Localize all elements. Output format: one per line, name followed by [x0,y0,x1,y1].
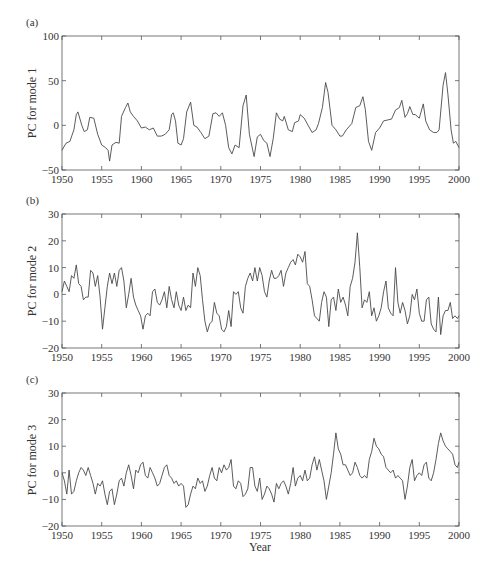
plot-frame [62,36,459,170]
panel-a: (a) PC for mode 1 1950195519601965197019… [25,16,471,185]
x-tick-label: 1970 [210,173,233,185]
series-line [62,433,459,508]
x-tick-label: 1995 [408,173,431,185]
y-tick-label: −50 [42,164,60,176]
x-tick-label: 1975 [250,529,273,541]
y-tick-label: 20 [48,235,60,247]
y-tick-label: 0 [54,467,60,479]
x-tick-label: 1975 [250,173,273,185]
y-tick-label: −10 [42,493,60,505]
x-tick-label: 1955 [91,529,114,541]
x-tick-label: 2000 [448,529,471,541]
y-tick-label: 50 [48,75,60,87]
x-tick-label: 1985 [329,173,352,185]
y-tick-label: 30 [48,387,60,399]
y-axis-label: PC for mode 1 [25,68,39,138]
y-tick-label: 30 [48,208,60,220]
x-tick-label: 1970 [210,529,233,541]
x-tick-label: 2000 [448,351,471,363]
x-axis-label: Year [249,540,271,554]
plot-frame [62,393,459,526]
x-tick-label: 1995 [408,351,431,363]
x-tick-label: 1960 [130,173,153,185]
x-tick-label: 1985 [329,529,352,541]
y-tick-label: 10 [48,440,60,452]
y-tick-label: 0 [54,288,60,300]
x-tick-label: 1990 [369,351,392,363]
x-tick-label: 1965 [170,173,193,185]
panel-label: (c) [26,373,39,386]
x-tick-label: 1960 [130,529,153,541]
y-axis-label: PC for mode 3 [25,425,39,495]
x-tick-label: 2000 [448,173,471,185]
y-tick-label: 10 [48,262,60,274]
x-tick-label: 1975 [250,351,273,363]
x-tick-label: 1980 [289,351,312,363]
series-line [62,233,459,335]
series-line [62,73,459,162]
x-tick-label: 1965 [170,529,193,541]
x-tick-label: 1965 [170,351,193,363]
y-tick-label: −20 [42,520,60,532]
x-tick-label: 1955 [91,351,114,363]
figure: (a) PC for mode 1 1950195519601965197019… [0,0,494,577]
y-tick-label: −20 [42,342,60,354]
x-tick-label: 1995 [408,529,431,541]
y-tick-label: −10 [42,315,60,327]
x-tick-label: 1980 [289,173,312,185]
x-tick-label: 1960 [130,351,153,363]
panel-c: (c) PC for mode 3 Year 19501955196019651… [25,373,471,554]
panel-label: (a) [26,16,39,29]
plot-frame [62,214,459,348]
y-tick-label: 20 [48,414,60,426]
x-tick-label: 1985 [329,351,352,363]
x-tick-label: 1990 [369,529,392,541]
x-tick-label: 1955 [91,173,114,185]
panel-b: (b) PC for mode 2 1950195519601965197019… [25,194,471,363]
y-tick-label: 0 [54,119,60,131]
x-tick-label: 1970 [210,351,233,363]
panel-label: (b) [26,194,39,207]
y-axis-label: PC for mode 2 [25,246,39,316]
x-tick-label: 1980 [289,529,312,541]
y-tick-label: 100 [43,30,60,42]
x-tick-label: 1990 [369,173,392,185]
